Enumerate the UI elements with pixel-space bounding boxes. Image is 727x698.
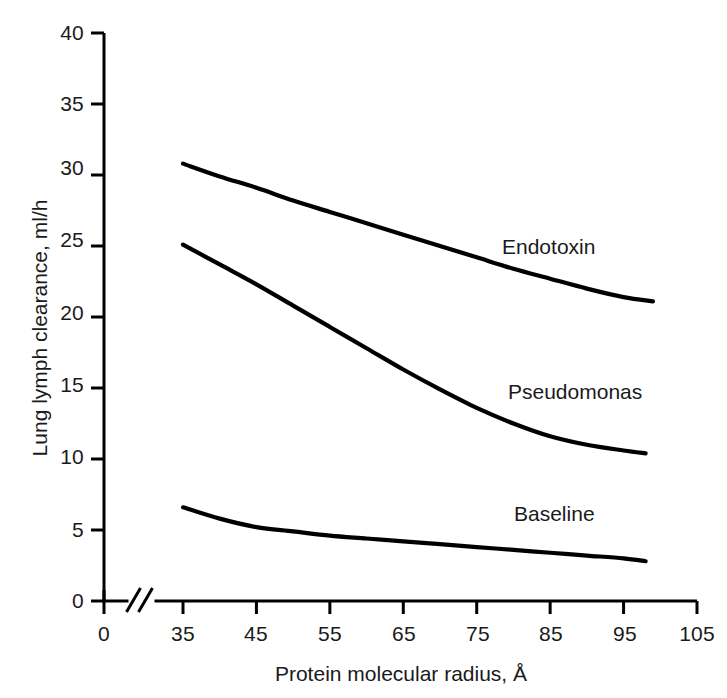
axis-group [91,33,697,614]
xtick-label-0: 0 [98,622,110,646]
xtick-label-35: 35 [171,622,195,646]
chart-figure: 0 5 10 15 20 25 30 35 40 0 35 45 55 65 7… [0,0,727,698]
xtick-label-55: 55 [318,622,342,646]
series-label-pseudomonas: Pseudomonas [508,380,642,404]
x-axis-title: Protein molecular radius, Å [104,662,698,686]
plot-canvas [0,0,727,698]
series-label-endotoxin: Endotoxin [502,235,595,259]
xtick-label-65: 65 [392,622,416,646]
series-label-baseline: Baseline [514,502,595,526]
ytick-label-0: 0 [42,589,84,613]
xtick-label-75: 75 [466,622,490,646]
xtick-label-45: 45 [244,622,268,646]
x-axis-break-icon [127,588,155,612]
ytick-label-40: 40 [42,21,84,45]
series-curve-pseudomonas [183,245,646,454]
ytick-label-35: 35 [42,92,84,116]
xtick-label-95: 95 [613,622,637,646]
y-axis-title: Lung lymph clearance, ml/h [28,118,52,538]
xtick-label-105: 105 [679,622,715,646]
xtick-label-85: 85 [539,622,563,646]
